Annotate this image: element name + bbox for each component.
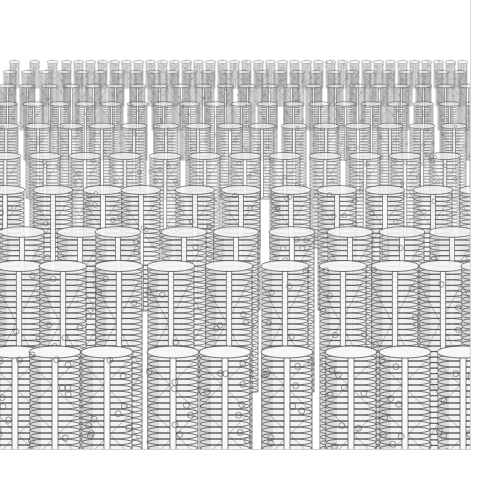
pillar-column: [261, 346, 314, 450]
pillar-row: [0, 346, 471, 450]
pillar-field-image: [0, 0, 471, 450]
pillar-column: [146, 346, 199, 450]
pillar-column: [325, 346, 377, 450]
pillar-column: [436, 346, 471, 450]
pillar-column: [81, 346, 133, 450]
pillar-field-svg: [0, 0, 471, 450]
image-border-bottom: [0, 449, 471, 450]
image-border-right: [470, 0, 471, 450]
pillar-column: [27, 346, 81, 450]
pillar-column: [199, 346, 251, 450]
pillar-column: [379, 346, 431, 450]
